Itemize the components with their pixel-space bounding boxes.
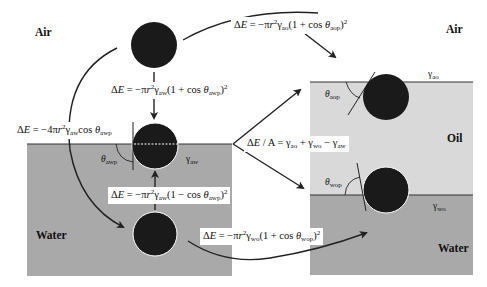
label-water-right: Water xyxy=(438,243,469,255)
particle-at-oil-water xyxy=(363,167,409,213)
equation-air-to-oil-interface: ΔE = −πr2γao(1 + cos θaop)2 xyxy=(231,17,350,34)
angle-label-awp: θawp xyxy=(101,155,117,166)
equation-water-to-interface: ΔE = −πr2γaw(1 − cos θawp)2 xyxy=(108,187,230,204)
equation-air-to-water: ΔE = −4πr2γawcos θawp xyxy=(14,122,115,139)
angle-label-wop: θwop xyxy=(325,178,342,189)
equation-spreading: ΔE / A = γao + γwo − γaw xyxy=(244,136,349,152)
water-phase-left xyxy=(27,144,232,276)
equation-water-to-oil-interface: ΔE = −πr2γwo(1 + cos θwop)2 xyxy=(200,228,323,245)
angle-label-aop: θaop xyxy=(325,90,340,101)
label-air-right: Air xyxy=(446,24,463,36)
tension-wo: γwo xyxy=(433,202,446,213)
tension-ao: γao xyxy=(428,70,439,81)
particle-at-air-water xyxy=(132,123,178,169)
label-air-left: Air xyxy=(35,27,52,39)
label-water-left: Water xyxy=(36,230,67,242)
label-oil-right: Oil xyxy=(447,133,462,145)
tension-aw: γaw xyxy=(186,155,198,166)
particle-in-air xyxy=(131,22,177,68)
particle-in-water xyxy=(133,212,177,256)
equation-air-to-interface: ΔE = −πr2γaw(1 + cos θawp)2 xyxy=(108,82,230,99)
arrow-air-to-oil-interface-head xyxy=(304,33,335,57)
